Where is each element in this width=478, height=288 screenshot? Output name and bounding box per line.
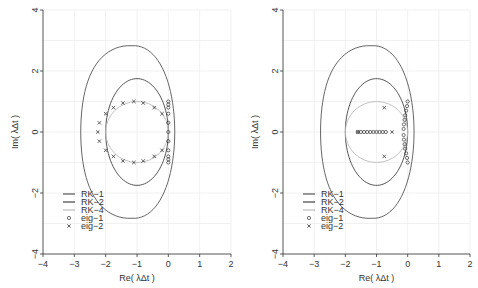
legend-circle-icon bbox=[307, 216, 310, 219]
x-axis-label: Re( λΔt ) bbox=[119, 273, 155, 283]
eig-2-marker bbox=[112, 155, 115, 158]
x-tick-label: 1 bbox=[436, 259, 441, 269]
plot-panel-left: −4−3−2−1012−4−2024Re( λΔt )Im( λΔt )RK−1… bbox=[10, 7, 234, 283]
legend-cross-icon bbox=[307, 224, 310, 227]
legend: RK−1RK−2RK−4eig−1eig−2 bbox=[303, 189, 344, 231]
x-tick-label: −3 bbox=[309, 259, 319, 269]
eig-1-marker bbox=[402, 127, 405, 130]
y-tick-label: 2 bbox=[30, 68, 40, 73]
y-tick-label: 0 bbox=[30, 129, 40, 134]
x-tick-label: 2 bbox=[228, 259, 233, 269]
x-tick-label: −3 bbox=[69, 259, 79, 269]
x-tick-label: 0 bbox=[166, 259, 171, 269]
eig-2-marker bbox=[98, 139, 101, 142]
y-tick-label: 2 bbox=[270, 68, 280, 73]
legend-label: eig−2 bbox=[81, 221, 103, 231]
y-axis-label: Im( λΔt ) bbox=[250, 115, 260, 149]
x-tick-label: −4 bbox=[38, 259, 48, 269]
y-tick-label: −4 bbox=[30, 249, 40, 259]
eig-2-marker bbox=[160, 112, 163, 115]
eig-2-marker bbox=[98, 121, 101, 124]
eig-2-marker bbox=[383, 155, 386, 158]
grid bbox=[283, 10, 470, 254]
eig-1-marker bbox=[402, 138, 405, 141]
eig-1-marker bbox=[405, 104, 408, 107]
x-axis-label: Re( λΔt ) bbox=[359, 273, 395, 283]
eig-2-marker bbox=[383, 106, 386, 109]
eig-1-marker bbox=[402, 123, 405, 126]
y-tick-label: −4 bbox=[270, 249, 280, 259]
y-axis-label: Im( λΔt ) bbox=[10, 115, 20, 149]
legend: RK−1RK−2RK−4eig−1eig−2 bbox=[63, 189, 104, 231]
x-tick-label: 0 bbox=[405, 259, 410, 269]
y-tick-label: 4 bbox=[270, 7, 280, 12]
x-tick-label: −1 bbox=[132, 259, 142, 269]
x-tick-label: 2 bbox=[467, 259, 472, 269]
eig-1-marker bbox=[405, 156, 408, 159]
x-tick-label: −2 bbox=[101, 259, 111, 269]
legend-circle-icon bbox=[67, 216, 70, 219]
x-tick-label: −1 bbox=[371, 259, 381, 269]
legend-label: eig−2 bbox=[321, 221, 343, 231]
chart-figure: −4−3−2−1012−4−2024Re( λΔt )Im( λΔt )RK−1… bbox=[0, 0, 478, 288]
eig-2-marker bbox=[112, 106, 115, 109]
plot-panel-right: −4−3−2−1012−4−2024Re( λΔt )Im( λΔt )RK−1… bbox=[250, 7, 473, 283]
x-tick-label: −4 bbox=[278, 259, 288, 269]
y-tick-label: 4 bbox=[30, 7, 40, 12]
x-tick-label: −2 bbox=[340, 259, 350, 269]
y-tick-label: −2 bbox=[30, 188, 40, 198]
y-tick-label: 0 bbox=[270, 129, 280, 134]
y-tick-label: −2 bbox=[270, 188, 280, 198]
grid bbox=[43, 10, 231, 254]
eig-2-marker bbox=[160, 149, 163, 152]
x-tick-label: 1 bbox=[197, 259, 202, 269]
legend-cross-icon bbox=[67, 224, 70, 227]
eig-1-marker bbox=[402, 133, 405, 136]
